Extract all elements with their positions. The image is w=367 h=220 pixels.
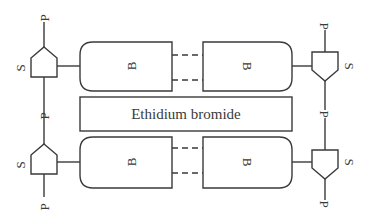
- top-right-sugar-pentagon: [312, 52, 338, 81]
- top-right-sugar-label: S: [342, 62, 357, 69]
- top-left-phosphate-label: P: [37, 14, 52, 21]
- top-right-base: B: [203, 42, 292, 91]
- bottom-left-sugar-unit: P S P: [13, 110, 80, 211]
- bottom-left-sugar-label: S: [13, 161, 28, 168]
- top-left-sugar-pentagon: [31, 47, 57, 77]
- bottom-right-phosphate-top-label: P: [317, 110, 332, 117]
- top-left-sugar-label: S: [13, 64, 28, 71]
- ethidium-bromide: Ethidium bromide: [80, 97, 292, 131]
- ethidium-intercalation-diagram: P S B B P S Ethidium bromide P S P: [0, 0, 367, 220]
- bottom-right-base: B: [203, 137, 292, 188]
- bottom-left-phosphate-top-label: P: [37, 112, 52, 119]
- top-right-base-label: B: [240, 62, 255, 71]
- bottom-right-sugar-label: S: [342, 158, 357, 165]
- bottom-right-phosphate-bottom-label: P: [317, 200, 332, 207]
- bottom-left-base: B: [80, 137, 172, 188]
- top-right-sugar-unit: P S: [292, 22, 357, 110]
- top-right-phosphate-label: P: [317, 22, 332, 29]
- top-left-base: B: [80, 42, 172, 91]
- top-left-sugar-unit: P S: [13, 14, 80, 110]
- bottom-right-sugar-unit: P S P: [292, 110, 357, 207]
- bottom-right-sugar-pentagon: [312, 150, 338, 179]
- ethidium-bromide-label: Ethidium bromide: [131, 106, 241, 122]
- bottom-left-sugar-pentagon: [31, 144, 57, 174]
- top-left-base-label: B: [124, 61, 139, 70]
- bottom-left-phosphate-label: P: [37, 203, 52, 210]
- bottom-left-base-label: B: [124, 157, 139, 166]
- bottom-right-base-label: B: [240, 158, 255, 167]
